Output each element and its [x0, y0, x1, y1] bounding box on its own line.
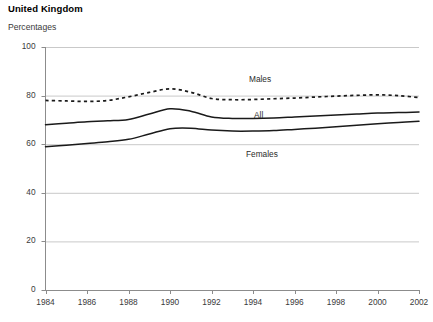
series-label-all: All	[254, 110, 263, 120]
x-axis-tick-label: 1992	[195, 297, 229, 307]
x-axis-tick-label: 1990	[153, 297, 187, 307]
y-axis-tick-label: 80	[10, 90, 36, 100]
x-axis-tick-label: 1984	[29, 297, 63, 307]
data-line-females	[46, 121, 420, 146]
x-axis-tick-label: 1998	[319, 297, 353, 307]
series-label-females: Females	[246, 149, 278, 159]
x-axis-tick-label: 1986	[70, 297, 104, 307]
axis-lines	[42, 47, 420, 291]
x-axis-tick-label: 2002	[402, 297, 433, 307]
data-line-all	[46, 109, 420, 125]
data-series-group	[46, 89, 420, 147]
y-axis-tick-label: 60	[10, 138, 36, 148]
y-axis-tick-label: 0	[10, 284, 36, 294]
data-line-males	[46, 89, 420, 102]
x-axis-tick-label: 2000	[361, 297, 395, 307]
x-axis-tick-label: 1996	[278, 297, 312, 307]
y-axis-tick-label: 100	[10, 41, 36, 51]
x-axis-tick-label: 1994	[236, 297, 270, 307]
x-axis-tick-label: 1988	[112, 297, 146, 307]
y-axis-tick-label: 20	[10, 235, 36, 245]
series-label-males: Males	[249, 74, 271, 84]
y-axis-tick-label: 40	[10, 187, 36, 197]
gridlines	[46, 48, 420, 242]
